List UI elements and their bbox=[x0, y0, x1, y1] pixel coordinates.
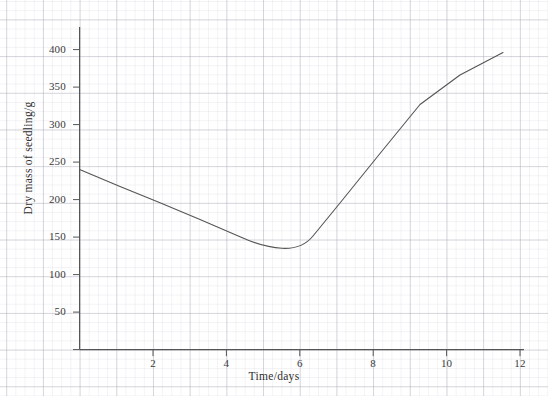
x-tick-label-10: 10 bbox=[427, 357, 467, 369]
y-tick-label-50: 50 bbox=[18, 305, 66, 317]
x-axis-title: Time/days bbox=[0, 370, 548, 382]
data-curve-seedling-mass bbox=[80, 53, 503, 249]
x-tick-label-8: 8 bbox=[353, 357, 393, 369]
x-tick-label-4: 4 bbox=[206, 357, 246, 369]
y-axis-title: Dry mass of seedling/g bbox=[22, 68, 34, 248]
y-tick-label-400: 400 bbox=[18, 43, 66, 55]
x-tick-label-12: 12 bbox=[500, 357, 540, 369]
x-tick-label-6: 6 bbox=[280, 357, 320, 369]
x-tick-label-2: 2 bbox=[133, 357, 173, 369]
plot-area bbox=[0, 0, 548, 396]
y-axis-ticks bbox=[73, 50, 80, 350]
graph-paper-chart: 50 100 150 200 250 300 350 400 2 4 6 8 1… bbox=[0, 0, 548, 396]
x-axis-ticks bbox=[153, 350, 520, 357]
y-tick-label-100: 100 bbox=[18, 268, 66, 280]
